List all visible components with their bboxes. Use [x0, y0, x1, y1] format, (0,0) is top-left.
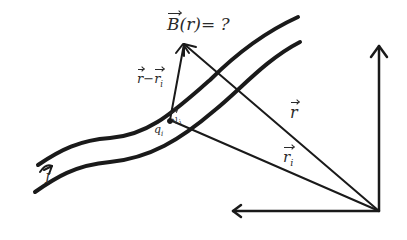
separation-label: r−ri — [137, 72, 163, 88]
current-label: I — [45, 172, 50, 185]
field-point-vector-label: r — [290, 105, 298, 121]
source-vector-label: ri — [283, 150, 293, 168]
vector-r-i — [170, 120, 379, 211]
sep-minus: − — [143, 71, 154, 86]
sep-r-i: ri — [154, 72, 163, 88]
r-i-symbol: ri — [283, 150, 293, 168]
b-equals-question: = ? — [201, 14, 230, 34]
diagram-canvas — [0, 0, 407, 240]
sep-r: r — [137, 72, 143, 85]
b-argument: (r) — [180, 14, 201, 34]
charge-q-sub: i — [161, 129, 163, 138]
current-i: I — [45, 171, 50, 186]
b-vector-symbol: B — [167, 16, 180, 33]
r-symbol: r — [290, 105, 298, 121]
field-question-label: B(r)= ? — [167, 16, 230, 33]
vector-r — [184, 44, 379, 211]
charge-q: q — [154, 123, 161, 136]
charge-label: qi — [154, 124, 163, 137]
